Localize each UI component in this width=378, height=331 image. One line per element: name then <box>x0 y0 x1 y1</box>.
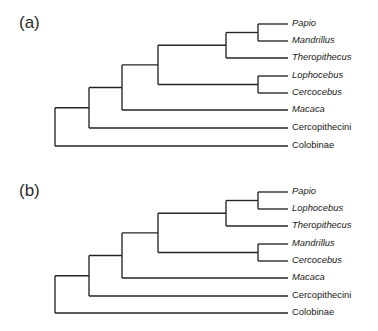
tip-label-cercocebus: Cercocebus <box>292 254 342 265</box>
tip-label-macaca: Macaca <box>292 103 325 114</box>
tip-label-theropithecus: Theropithecus <box>292 51 352 62</box>
tip-label-mandrillus: Mandrillus <box>292 34 335 45</box>
panel-letter: (a) <box>19 13 40 32</box>
tip-label-cercocebus: Cercocebus <box>292 86 342 97</box>
tip-label-papio: Papio <box>292 185 316 196</box>
tip-label-cercopithecini: Cercopithecini <box>292 121 351 132</box>
tip-label-papio: Papio <box>292 17 316 28</box>
tip-label-colobinae: Colobinae <box>292 139 334 150</box>
tip-label-colobinae: Colobinae <box>292 306 334 317</box>
tip-label-theropithecus: Theropithecus <box>292 219 352 230</box>
tip-label-lophocebus: Lophocebus <box>292 202 343 213</box>
tip-label-lophocebus: Lophocebus <box>292 69 343 80</box>
tip-label-mandrillus: Mandrillus <box>292 237 335 248</box>
phylogenetic-tree-figure: (a)PapioMandrillusTheropithecusLophocebu… <box>0 0 378 331</box>
tip-label-cercopithecini: Cercopithecini <box>292 289 351 300</box>
tip-label-macaca: Macaca <box>292 271 325 282</box>
panel-letter: (b) <box>19 181 40 200</box>
